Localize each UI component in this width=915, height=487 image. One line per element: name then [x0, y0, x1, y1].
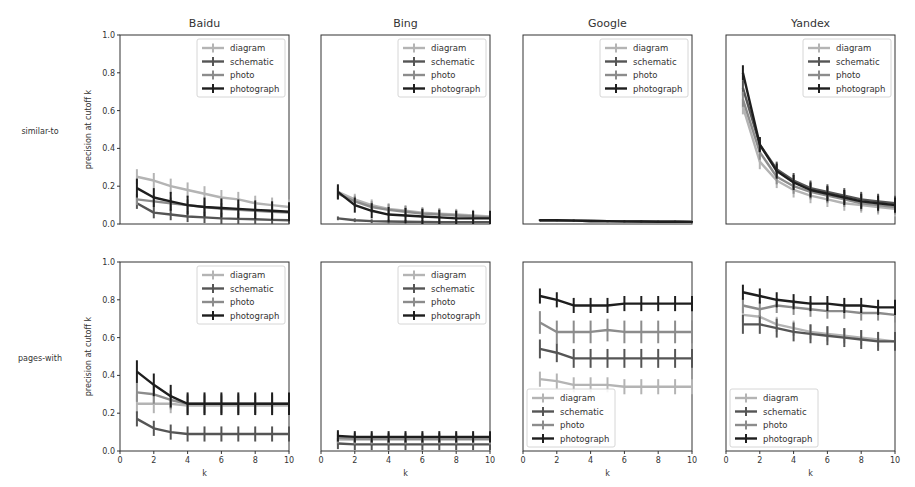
y-tick-label: 0.4: [102, 371, 115, 380]
legend-entry-schematic: schematic: [431, 57, 475, 67]
x-tick-label: 4: [185, 456, 190, 465]
column-title-baidu: Baidu: [189, 17, 220, 30]
x-axis-label: k: [202, 469, 207, 478]
legend-entry-photograph: photograph: [763, 434, 812, 444]
legend-entry-diagram: diagram: [230, 270, 265, 280]
chart-grid: BaiduBingGoogleYandexsimilar-topages-wit…: [0, 0, 915, 487]
y-tick-label: 0.0: [102, 447, 115, 456]
legend: diagramschematicphotophotograph: [803, 39, 891, 97]
x-axis-label: k: [605, 469, 610, 478]
legend-entry-photo: photo: [230, 70, 255, 80]
legend-entry-schematic: schematic: [763, 407, 807, 417]
legend-entry-schematic: schematic: [560, 407, 604, 417]
x-axis-label: k: [808, 469, 813, 478]
y-tick-label: 0.2: [102, 182, 115, 191]
legend-entry-photo: photo: [431, 297, 456, 307]
legend: diagramschematicphotophotograph: [398, 266, 486, 324]
x-tick-label: 2: [352, 456, 357, 465]
x-tick-label: 4: [588, 456, 593, 465]
panel-pages-with-google: 0246810kdiagramschematicphotophotograph: [520, 262, 697, 478]
x-tick-label: 0: [520, 456, 525, 465]
legend-entry-diagram: diagram: [560, 393, 595, 403]
panel-pages-with-yandex: 0246810kdiagramschematicphotophotograph: [723, 262, 900, 478]
legend-entry-diagram: diagram: [836, 43, 871, 53]
legend-entry-diagram: diagram: [230, 43, 265, 53]
legend-entry-diagram: diagram: [431, 270, 466, 280]
y-tick-label: 0.4: [102, 144, 115, 153]
legend-entry-photo: photo: [431, 70, 456, 80]
x-tick-label: 10: [284, 456, 294, 465]
legend: diagramschematicphotophotograph: [398, 39, 486, 97]
panel-similar-to-google: diagramschematicphotophotograph: [523, 35, 692, 224]
figure: BaiduBingGoogleYandexsimilar-topages-wit…: [0, 0, 915, 487]
panel-pages-with-baidu: 0.00.20.40.60.81.0precision at cutoff k0…: [84, 258, 294, 478]
panel-pages-with-bing: 0246810kdiagramschematicphotophotograph: [318, 262, 495, 478]
legend-entry-photo: photo: [836, 70, 861, 80]
legend-entry-photograph: photograph: [836, 84, 885, 94]
x-tick-label: 2: [757, 456, 762, 465]
y-axis-label: precision at cutoff k: [84, 316, 93, 396]
panel-similar-to-yandex: diagramschematicphotophotograph: [726, 35, 895, 224]
x-tick-label: 4: [791, 456, 796, 465]
legend-entry-photo: photo: [560, 420, 585, 430]
x-tick-label: 0: [723, 456, 728, 465]
legend-entry-photograph: photograph: [633, 84, 682, 94]
y-axis-label: precision at cutoff k: [84, 89, 93, 169]
column-title-yandex: Yandex: [790, 17, 830, 30]
legend-entry-photo: photo: [633, 70, 658, 80]
legend: diagramschematicphotophotograph: [197, 266, 285, 324]
legend-entry-schematic: schematic: [633, 57, 677, 67]
legend-entry-photo: photo: [763, 420, 788, 430]
y-tick-label: 0.6: [102, 107, 115, 116]
x-tick-label: 8: [454, 456, 459, 465]
y-tick-label: 0.8: [102, 296, 115, 305]
x-tick-label: 8: [253, 456, 258, 465]
x-tick-label: 0: [117, 456, 122, 465]
x-tick-label: 10: [890, 456, 900, 465]
legend-entry-photograph: photograph: [230, 84, 279, 94]
y-tick-label: 0.0: [102, 220, 115, 229]
x-tick-label: 6: [420, 456, 425, 465]
legend-entry-photo: photo: [230, 297, 255, 307]
x-tick-label: 10: [687, 456, 697, 465]
row-label-similar-to: similar-to: [21, 127, 58, 136]
legend-entry-diagram: diagram: [633, 43, 668, 53]
y-tick-label: 0.8: [102, 69, 115, 78]
legend-entry-schematic: schematic: [836, 57, 880, 67]
y-tick-label: 1.0: [102, 31, 115, 40]
x-tick-label: 8: [656, 456, 661, 465]
y-tick-label: 0.6: [102, 334, 115, 343]
x-axis-label: k: [403, 469, 408, 478]
x-tick-label: 2: [151, 456, 156, 465]
row-label-pages-with: pages-with: [18, 354, 62, 363]
legend-entry-photograph: photograph: [230, 311, 279, 321]
panel-similar-to-bing: diagramschematicphotophotograph: [321, 35, 490, 224]
legend-entry-schematic: schematic: [230, 284, 274, 294]
legend-entry-photograph: photograph: [431, 84, 480, 94]
y-tick-label: 1.0: [102, 258, 115, 267]
legend: diagramschematicphotophotograph: [600, 39, 688, 97]
panel-similar-to-baidu: 0.00.20.40.60.81.0precision at cutoff kd…: [84, 31, 289, 229]
column-title-google: Google: [588, 17, 627, 30]
x-tick-label: 6: [622, 456, 627, 465]
legend: diagramschematicphotophotograph: [527, 389, 615, 447]
y-tick-label: 0.2: [102, 409, 115, 418]
x-tick-label: 8: [859, 456, 864, 465]
legend: diagramschematicphotophotograph: [197, 39, 285, 97]
x-tick-label: 0: [318, 456, 323, 465]
legend-entry-photograph: photograph: [431, 311, 480, 321]
legend-entry-diagram: diagram: [431, 43, 466, 53]
x-tick-label: 10: [485, 456, 495, 465]
x-tick-label: 2: [554, 456, 559, 465]
legend: diagramschematicphotophotograph: [730, 389, 818, 447]
x-tick-label: 6: [825, 456, 830, 465]
legend-entry-photograph: photograph: [560, 434, 609, 444]
legend-entry-diagram: diagram: [763, 393, 798, 403]
x-tick-label: 6: [219, 456, 224, 465]
legend-entry-schematic: schematic: [431, 284, 475, 294]
x-tick-label: 4: [386, 456, 391, 465]
legend-entry-schematic: schematic: [230, 57, 274, 67]
column-title-bing: Bing: [393, 17, 418, 30]
